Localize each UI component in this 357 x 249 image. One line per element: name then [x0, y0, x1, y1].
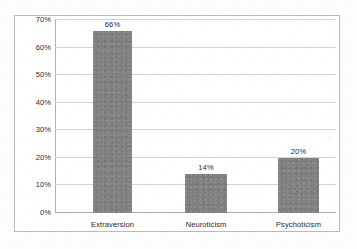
y-axis-tick-label-40: 40% — [36, 97, 51, 106]
bar-value-label-extraversion: 66% — [105, 20, 120, 29]
bar-psychoticism[interactable]: 20% — [278, 158, 319, 213]
y-axis-tick-label-50: 50% — [36, 70, 51, 79]
y-axis-tick-label-10: 10% — [36, 180, 51, 189]
y-axis-tick-label-30: 30% — [36, 125, 51, 134]
bar-value-label-psychoticism: 20% — [291, 147, 306, 156]
x-axis-category-label-extraversion: Extraversion — [91, 220, 134, 229]
bar-extraversion[interactable]: 66% — [93, 31, 132, 213]
y-axis-tick-label-0: 0% — [40, 208, 51, 217]
y-axis-tick-label-20: 20% — [36, 152, 51, 161]
bar-neuroticism[interactable]: 14% — [185, 174, 227, 213]
x-axis-category-label-psychoticism: Psychoticism — [276, 220, 321, 229]
plot-area: 70% 60% 50% 40% 30% 20% 10% 0% 66% 14% — [55, 19, 336, 213]
bar-value-label-neuroticism: 14% — [198, 163, 213, 172]
x-axis-category-label-neuroticism: Neuroticism — [186, 220, 227, 229]
y-axis-tick-label-60: 60% — [36, 42, 51, 51]
y-axis-tick-label-70: 70% — [36, 15, 51, 24]
chart-frame: 70% 60% 50% 40% 30% 20% 10% 0% 66% 14% — [14, 15, 340, 232]
gridline-70: 70% — [55, 19, 336, 20]
